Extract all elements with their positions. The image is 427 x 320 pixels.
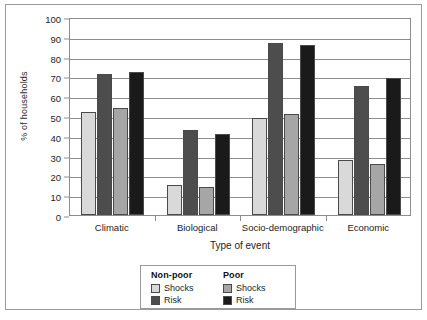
legend-column: Non-poorShocksRisk — [151, 270, 223, 308]
legend-swatch-icon — [151, 284, 160, 293]
figure-frame: % of households 1009080706050403020100 C… — [5, 4, 422, 310]
bar — [268, 43, 283, 215]
legend-item-label: Shocks — [164, 283, 194, 293]
bar — [199, 187, 214, 215]
y-tick-label: 10 — [50, 192, 61, 203]
x-axis-title: Type of event — [69, 240, 411, 251]
bars-layer — [70, 19, 410, 215]
legend-item: Risk — [151, 295, 223, 305]
bar — [215, 134, 230, 215]
bar — [284, 114, 299, 215]
y-tick-label: 30 — [50, 152, 61, 163]
legend-column: PoorShocksRisk — [223, 270, 295, 308]
bar — [183, 130, 198, 215]
legend-item-label: Risk — [164, 295, 182, 305]
y-tick-label: 0 — [56, 212, 61, 223]
bar — [113, 108, 128, 215]
x-axis-category-label: Climatic — [95, 222, 129, 233]
legend-swatch-icon — [151, 296, 160, 305]
bar — [97, 74, 112, 215]
x-tick-mark — [326, 216, 327, 221]
legend-group-heading: Poor — [223, 270, 295, 280]
bar — [386, 78, 401, 215]
bar — [300, 45, 315, 215]
y-axis-ticks: 1009080706050403020100 — [6, 18, 69, 216]
y-tick-label: 60 — [50, 93, 61, 104]
chart-legend: Non-poorShocksRiskPoorShocksRisk — [140, 265, 296, 309]
plot-area — [69, 18, 411, 216]
bar — [81, 112, 96, 215]
x-tick-mark — [155, 216, 156, 221]
y-tick-label: 20 — [50, 172, 61, 183]
bar — [252, 118, 267, 215]
x-axis-tick-marks — [69, 216, 411, 221]
x-axis-labels: ClimaticBiologicalSocio-demographicEcono… — [69, 222, 411, 236]
x-axis-category-label: Economic — [347, 222, 389, 233]
x-axis-category-label: Socio-demographic — [242, 222, 324, 233]
x-axis-category-label: Biological — [177, 222, 218, 233]
bar — [129, 72, 144, 215]
legend-item: Risk — [223, 295, 295, 305]
legend-item: Shocks — [223, 283, 295, 293]
y-tick-label: 100 — [45, 14, 61, 25]
y-tick-label: 90 — [50, 33, 61, 44]
legend-item-label: Shocks — [236, 283, 266, 293]
y-tick-label: 80 — [50, 53, 61, 64]
legend-swatch-icon — [223, 296, 232, 305]
legend-item-label: Risk — [236, 295, 254, 305]
bar — [370, 164, 385, 215]
legend-group-heading: Non-poor — [151, 270, 223, 280]
bar — [167, 185, 182, 215]
bar — [354, 86, 369, 215]
y-tick-label: 40 — [50, 132, 61, 143]
y-tick-label: 50 — [50, 113, 61, 124]
legend-item: Shocks — [151, 283, 223, 293]
x-tick-mark — [240, 216, 241, 221]
bar — [338, 160, 353, 215]
legend-swatch-icon — [223, 284, 232, 293]
y-tick-label: 70 — [50, 73, 61, 84]
